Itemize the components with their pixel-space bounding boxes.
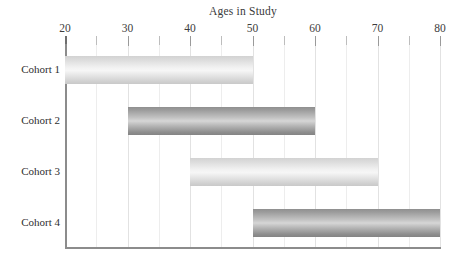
axis-tick <box>440 36 441 46</box>
axis-tick <box>190 36 191 46</box>
bar <box>253 209 441 237</box>
chart-title: Ages in Study <box>0 5 460 17</box>
axis-tick <box>409 36 410 45</box>
x-tick-label: 70 <box>358 22 398 34</box>
axis-tick <box>315 36 316 46</box>
x-tick-label: 20 <box>45 22 85 34</box>
bar-chart: Ages in Study 20304050607080 Cohort 1Coh… <box>0 0 460 260</box>
y-tick-label: Cohort 3 <box>0 165 60 177</box>
axis-tick <box>253 36 254 46</box>
axis-tick <box>128 36 129 46</box>
chart-title-text: Ages in Study <box>209 5 277 17</box>
x-axis-line <box>65 247 441 249</box>
x-tick-label: 40 <box>170 22 210 34</box>
x-tick-label: 30 <box>108 22 148 34</box>
axis-tick <box>378 36 379 46</box>
axis-tick <box>96 36 97 45</box>
axis-tick <box>221 36 222 45</box>
x-tick-label: 50 <box>233 22 273 34</box>
bar <box>128 107 316 135</box>
y-tick-label: Cohort 1 <box>0 63 60 75</box>
bar <box>190 158 378 186</box>
bar <box>65 56 253 84</box>
y-tick-label: Cohort 2 <box>0 114 60 126</box>
x-tick-label: 60 <box>295 22 335 34</box>
x-tick-label: 80 <box>420 22 460 34</box>
axis-tick <box>346 36 347 45</box>
gridline <box>440 44 441 248</box>
y-tick-label: Cohort 4 <box>0 216 60 228</box>
axis-tick <box>284 36 285 45</box>
axis-tick <box>159 36 160 45</box>
